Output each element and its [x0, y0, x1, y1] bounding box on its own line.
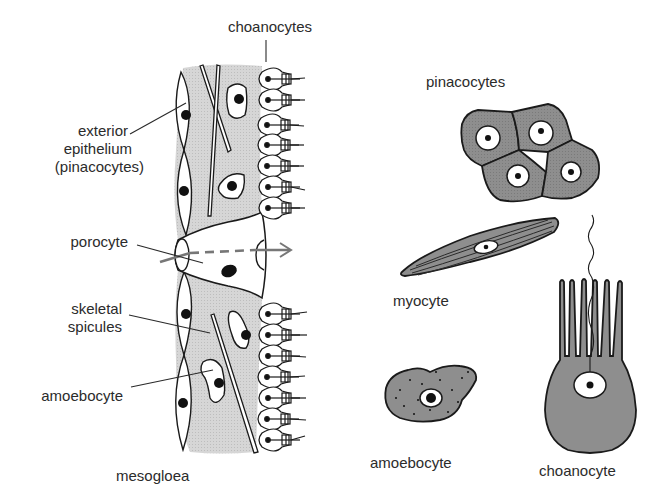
amoebocyte-cell	[385, 366, 476, 422]
choanocytes-lower-row	[258, 303, 307, 451]
label-pinacocytes: pinacocytes	[426, 73, 505, 91]
label-choanocyte: choanocyte	[539, 462, 616, 480]
myocyte-cell	[401, 218, 558, 276]
label-amoebocyte: amoebocyte	[370, 454, 452, 472]
choanocyte-cell	[545, 215, 636, 453]
pinacocytes-cluster	[461, 104, 599, 201]
choanocytes-upper-row	[258, 68, 305, 219]
body-wall-section	[129, 40, 307, 454]
label-exterior-epithelium-line3: (pinacocytes)	[20, 158, 144, 176]
label-choanocytes: choanocytes	[220, 18, 320, 36]
label-skeletal-spicules-line1: skeletal	[30, 300, 122, 318]
label-skeletal-spicules-line2: spicules	[30, 318, 122, 336]
label-myocyte: myocyte	[393, 292, 449, 310]
label-porocyte: porocyte	[30, 233, 128, 251]
label-mesogloea: mesogloea	[116, 467, 189, 485]
label-exterior-epithelium-line1: exterior	[30, 122, 128, 140]
label-amoebocyte-wall: amoebocyte	[10, 387, 123, 405]
label-exterior-epithelium-line2: epithelium	[30, 140, 132, 158]
